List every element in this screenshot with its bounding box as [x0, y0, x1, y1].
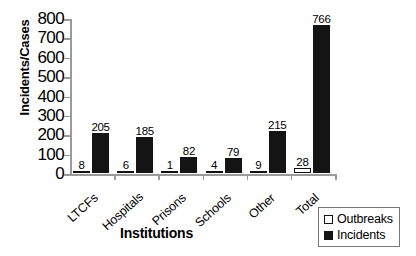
bar-chart: Incidents/Cases 010020030040050060070080…: [0, 0, 416, 256]
legend-label: Incidents: [337, 229, 385, 242]
legend-label: Outbreaks: [337, 213, 393, 226]
hollow-square-icon: [324, 215, 333, 224]
chart-legend: OutbreaksIncidents: [318, 207, 400, 247]
x-axis-category-label: Other: [232, 191, 277, 234]
x-axis-category-label: Schools: [188, 191, 233, 234]
x-axis-title: Institutions: [120, 225, 193, 241]
x-axis-category-label: LTCFs: [56, 191, 101, 234]
legend-item: Incidents: [324, 227, 393, 243]
x-axis-category-label: Total: [277, 191, 322, 234]
filled-square-icon: [324, 231, 333, 240]
legend-item: Outbreaks: [324, 211, 393, 227]
